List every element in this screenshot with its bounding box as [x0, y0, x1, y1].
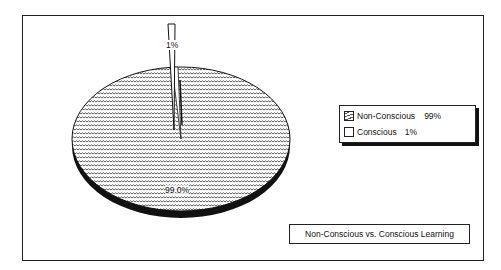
legend-label: Non-Conscious: [357, 111, 415, 121]
legend-value: 1%: [405, 127, 417, 137]
wave-swatch-icon: [344, 111, 354, 121]
legend: Non-Conscious 99% Conscious 1%: [339, 105, 476, 143]
legend-item-non-conscious: Non-Conscious 99%: [344, 111, 441, 121]
legend-item-conscious: Conscious 1%: [344, 127, 417, 137]
legend-label: Conscious: [357, 127, 397, 137]
label-conscious: 1%: [166, 40, 178, 50]
blank-swatch-icon: [344, 127, 354, 137]
chart-title: Non-Conscious vs. Conscious Learning: [289, 224, 470, 244]
legend-value: 99%: [424, 111, 441, 121]
label-non-conscious: 99.0%: [165, 185, 189, 195]
